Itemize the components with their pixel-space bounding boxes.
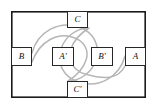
node-box-c: C: [67, 11, 88, 28]
node-box-c-prime: C': [67, 81, 88, 98]
topology-diagram: C B A' B' A C': [0, 0, 157, 110]
node-box-b: B: [11, 47, 32, 66]
node-label-a-prime: A': [59, 52, 66, 61]
node-label-b-prime: B': [98, 52, 105, 61]
node-box-b-prime: B': [91, 47, 113, 66]
node-box-a-prime: A': [52, 47, 74, 66]
node-label-c: C: [74, 15, 80, 24]
node-label-b: B: [19, 52, 25, 61]
node-box-a: A: [125, 47, 146, 66]
node-label-c-prime: C': [74, 85, 82, 94]
node-label-a: A: [133, 52, 139, 61]
